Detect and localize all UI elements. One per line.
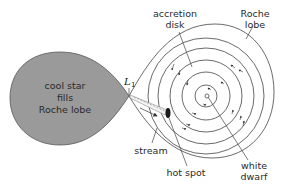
stream-label: stream	[134, 145, 167, 156]
star-label-line-3: Roche lobe	[39, 104, 92, 115]
accretion-disk-label-line-1: accretion	[153, 8, 197, 19]
accretion-disk-leader	[179, 32, 192, 67]
binary-star-diagram: cool star fills Roche lobe L 1 accretion…	[0, 0, 283, 193]
roche-lobe-label-line-2: lobe	[245, 19, 265, 30]
mass-transfer-stream	[130, 95, 167, 116]
roche-lobe-label-line-1: Roche	[240, 8, 269, 19]
accretion-disk-label-line-2: disk	[165, 19, 185, 30]
white-dwarf-label-line-1: white	[241, 160, 267, 171]
hot-spot-label: hot spot	[166, 167, 205, 178]
hot-spot	[166, 108, 171, 118]
star-label-line-2: fills	[57, 92, 73, 103]
white-dwarf-label-line-2: dwarf	[241, 171, 269, 182]
l1-label: L	[123, 76, 131, 87]
star-label-line-1: cool star	[45, 80, 86, 91]
roche-lobe-outline	[129, 24, 274, 158]
l1-subscript: 1	[131, 81, 135, 89]
